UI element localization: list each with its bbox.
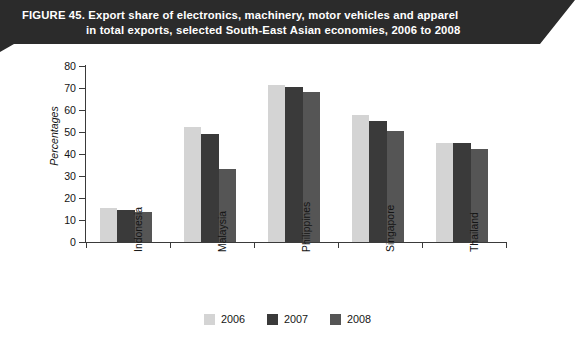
legend-swatch-2008 (330, 314, 341, 325)
x-axis-tick (86, 242, 87, 248)
figure-title: FIGURE 45. Export share of electronics, … (0, 0, 575, 44)
x-axis-label-singapore: Singapore (385, 205, 396, 252)
chart-legend: 200620072008 (0, 314, 575, 325)
y-axis-tick (79, 176, 85, 177)
y-axis-tick-label: 10 (4, 215, 76, 226)
y-axis-tick-label: 30 (4, 171, 76, 182)
y-axis-tick-label: 0 (4, 237, 76, 248)
y-axis-tick (79, 88, 85, 89)
y-axis-tick-label-wrap: 10 (0, 215, 76, 226)
legend-item-2006[interactable]: 2006 (204, 314, 245, 325)
y-axis-tick-label: 80 (4, 61, 76, 72)
x-axis-label-thailand: Thailand (469, 212, 480, 252)
x-axis-label-philippines: Philippines (301, 202, 312, 252)
bar-malaysia-2006 (184, 127, 202, 243)
y-axis-tick (79, 66, 85, 67)
bar-thailand-2006 (436, 143, 454, 242)
x-axis-label-indonesia: Indonesia (133, 207, 144, 252)
legend-swatch-2006 (204, 314, 215, 325)
y-axis-tick-label-wrap: 20 (0, 193, 76, 204)
y-axis-tick-label: 50 (4, 127, 76, 138)
y-axis-tick (79, 110, 85, 111)
legend-label-2006: 2006 (221, 314, 245, 325)
y-axis-tick (79, 198, 85, 199)
y-axis-tick-label-wrap: 80 (0, 61, 76, 72)
y-axis-tick-label-wrap: 30 (0, 171, 76, 182)
x-axis-tick (170, 242, 171, 248)
legend-item-2008[interactable]: 2008 (330, 314, 371, 325)
x-axis-tick (422, 242, 423, 248)
y-axis-tick (79, 242, 85, 243)
y-axis-tick-label: 40 (4, 149, 76, 160)
y-axis-tick-label-wrap: 50 (0, 127, 76, 138)
legend-item-2007[interactable]: 2007 (267, 314, 308, 325)
bar-philippines-2006 (268, 85, 286, 242)
y-axis-tick (79, 220, 85, 221)
bar-singapore-2006 (352, 115, 370, 242)
figure-title-line-1: FIGURE 45. Export share of electronics, … (0, 8, 575, 23)
y-axis-tick-label-wrap: 40 (0, 149, 76, 160)
x-axis-tick (254, 242, 255, 248)
y-axis-tick (79, 154, 85, 155)
x-axis-tick (338, 242, 339, 248)
x-axis-tick (506, 242, 507, 248)
y-axis-tick-label-wrap: 0 (0, 237, 76, 248)
x-axis-label-malaysia: Malaysia (217, 211, 228, 252)
bar-chart: Percentages 80706050403020100 IndonesiaM… (0, 52, 575, 346)
y-axis-tick-label-wrap: 60 (0, 105, 76, 116)
y-axis-tick-label: 20 (4, 193, 76, 204)
y-axis-tick-label-wrap: 70 (0, 83, 76, 94)
legend-label-2007: 2007 (284, 314, 308, 325)
legend-label-2008: 2008 (347, 314, 371, 325)
bar-indonesia-2006 (100, 208, 118, 242)
legend-swatch-2007 (267, 314, 278, 325)
figure-title-line-2: in total exports, selected South-East As… (0, 23, 575, 38)
y-axis-tick (79, 132, 85, 133)
y-axis-tick-label: 60 (4, 105, 76, 116)
y-axis-tick-label: 70 (4, 83, 76, 94)
plot-area (86, 66, 506, 242)
